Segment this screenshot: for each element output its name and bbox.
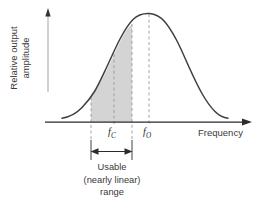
y-axis-arrowhead-icon bbox=[45, 8, 50, 17]
x-axis-label: Frequency bbox=[198, 127, 243, 138]
y-axis-label-line1: Relative output bbox=[8, 6, 20, 110]
usable-range-caption-line2: (nearly linear) bbox=[57, 174, 167, 187]
y-axis-label: Relative output amplitude bbox=[8, 6, 38, 110]
tick-label-fc-subscript: C bbox=[111, 132, 116, 140]
y-axis-label-line2: amplitude bbox=[20, 6, 32, 110]
dimension-arrowhead-right-icon bbox=[125, 148, 133, 154]
usable-range-caption: Usable (nearly linear) range bbox=[57, 161, 167, 199]
frequency-response-figure: Relative output amplitude Frequency fC f… bbox=[0, 0, 267, 210]
usable-range-shaded-region bbox=[91, 24, 132, 122]
usable-range-caption-line3: range bbox=[57, 186, 167, 199]
response-curve bbox=[62, 14, 228, 119]
tick-label-fc: fC bbox=[108, 126, 116, 137]
x-axis-arrowhead-icon bbox=[242, 118, 252, 125]
usable-range-caption-line1: Usable bbox=[57, 161, 167, 174]
dimension-arrowhead-left-icon bbox=[91, 148, 99, 154]
tick-label-fo-subscript: O bbox=[146, 132, 151, 140]
tick-label-fo: fO bbox=[143, 126, 151, 137]
